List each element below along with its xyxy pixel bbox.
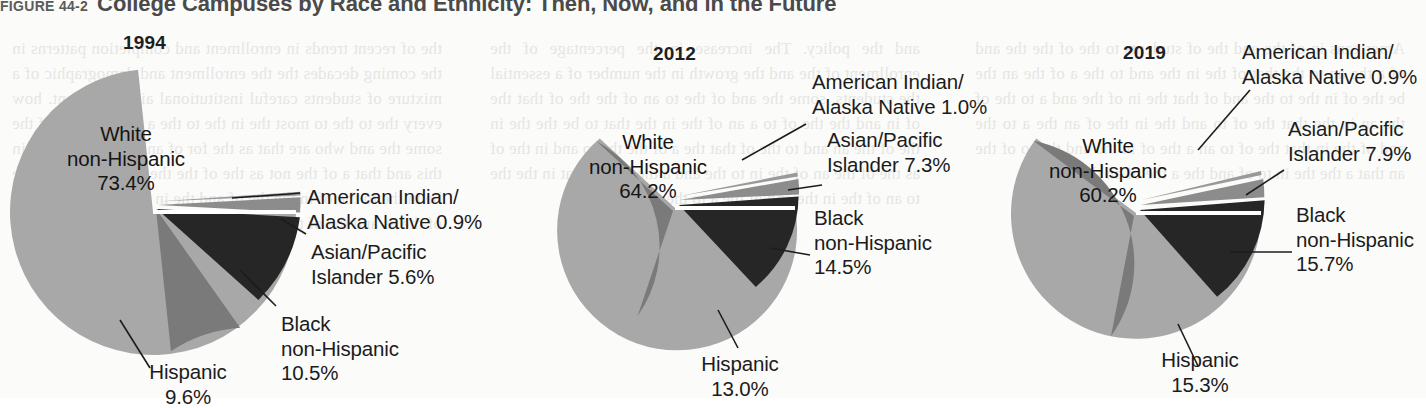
slice-label-white-line1-2019: White bbox=[1016, 134, 1200, 159]
slice-label-hisp-pct-2012: 13.0% bbox=[670, 377, 810, 402]
pie-chart-2019: 2019 White non-Hispanic 60.2% American I… bbox=[940, 0, 1426, 398]
slice-label-hisp-pct-2019: 15.3% bbox=[1130, 373, 1270, 398]
slice-label-ai-line1-2019: American Indian/ bbox=[1242, 40, 1417, 65]
slice-label-white-line2-2012: non-Hispanic bbox=[556, 155, 740, 180]
slice-label-american-indian-2019: American Indian/ Alaska Native 0.9% bbox=[1242, 40, 1417, 89]
slice-label-ai-line2-1994: Alaska Native 0.9% bbox=[307, 210, 482, 235]
slice-label-ai-line2-2019: Alaska Native 0.9% bbox=[1242, 65, 1417, 90]
slice-label-ai-line1-1994: American Indian/ bbox=[307, 185, 482, 210]
slice-label-hispanic-1994: Hispanic 9.6% bbox=[118, 360, 258, 408]
slice-label-black-line1-1994: Black bbox=[281, 312, 399, 337]
slice-label-api-line1-2012: Asian/Pacific bbox=[827, 128, 950, 153]
slice-label-black-2019: Black non-Hispanic 15.7% bbox=[1296, 203, 1414, 277]
figure-title-text: College Campuses by Race and Ethnicity: … bbox=[97, 0, 836, 16]
pie-chart-2012: 2012 White non-Hispanic 64.2% American I… bbox=[470, 0, 940, 398]
slice-label-black-pct-1994: 10.5% bbox=[281, 361, 399, 386]
slice-label-api-line2-2019: Islander 7.9% bbox=[1288, 142, 1411, 167]
pie-chart-1994: 1994 White non-Hispanic 73.4% America bbox=[0, 0, 470, 398]
slice-label-hisp-line1-1994: Hispanic bbox=[118, 360, 258, 385]
figure-number: FIGURE 44-2 bbox=[0, 0, 88, 14]
slice-label-black-line1-2012: Black bbox=[814, 206, 932, 231]
slice-label-white-line2-1994: non-Hispanic bbox=[34, 147, 218, 172]
slice-label-white-2019: White non-Hispanic 60.2% bbox=[1016, 134, 1200, 208]
figure-title: FIGURE 44-2College Campuses by Race and … bbox=[0, 0, 836, 19]
slice-label-asian-pacific-2012: Asian/Pacific Islander 7.3% bbox=[827, 128, 950, 177]
slice-label-api-line1-2019: Asian/Pacific bbox=[1288, 117, 1411, 142]
slice-label-hispanic-2019: Hispanic 15.3% bbox=[1130, 348, 1270, 397]
slice-label-black-pct-2012: 14.5% bbox=[814, 255, 932, 280]
slice-label-hisp-pct-1994: 9.6% bbox=[118, 385, 258, 408]
slice-label-white-pct-2019: 60.2% bbox=[1016, 183, 1200, 208]
slice-label-black-2012: Black non-Hispanic 14.5% bbox=[814, 206, 932, 280]
slice-label-api-line1-1994: Asian/Pacific bbox=[311, 240, 434, 265]
slice-label-black-1994: Black non-Hispanic 10.5% bbox=[281, 312, 399, 386]
slice-label-api-line2-2012: Islander 7.3% bbox=[827, 153, 950, 178]
slice-label-white-1994: White non-Hispanic 73.4% bbox=[34, 122, 218, 196]
slice-label-white-line2-2019: non-Hispanic bbox=[1016, 159, 1200, 184]
slice-label-white-line1-2012: White bbox=[556, 130, 740, 155]
slice-label-asian-pacific-1994: Asian/Pacific Islander 5.6% bbox=[311, 240, 434, 289]
slice-label-american-indian-1994: American Indian/ Alaska Native 0.9% bbox=[307, 185, 482, 234]
slice-label-white-pct-2012: 64.2% bbox=[556, 179, 740, 204]
slice-label-black-pct-2019: 15.7% bbox=[1296, 252, 1414, 277]
slice-label-black-line2-1994: non-Hispanic bbox=[281, 337, 399, 362]
slice-label-api-line2-1994: Islander 5.6% bbox=[311, 265, 434, 290]
slice-label-black-line2-2019: non-Hispanic bbox=[1296, 228, 1414, 253]
slice-label-white-2012: White non-Hispanic 64.2% bbox=[556, 130, 740, 204]
slice-label-white-line1-1994: White bbox=[34, 122, 218, 147]
slice-label-black-line1-2019: Black bbox=[1296, 203, 1414, 228]
slice-label-hispanic-2012: Hispanic 13.0% bbox=[670, 352, 810, 401]
slice-label-black-line2-2012: non-Hispanic bbox=[814, 231, 932, 256]
slice-label-asian-pacific-2019: Asian/Pacific Islander 7.9% bbox=[1288, 117, 1411, 166]
slice-label-hisp-line1-2012: Hispanic bbox=[670, 352, 810, 377]
slice-label-white-pct-1994: 73.4% bbox=[34, 171, 218, 196]
slice-label-hisp-line1-2019: Hispanic bbox=[1130, 348, 1270, 373]
